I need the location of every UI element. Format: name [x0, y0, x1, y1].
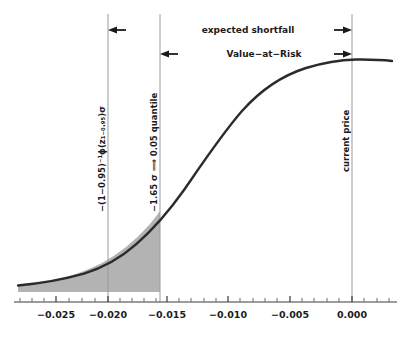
- quantile-label: −1.65 σ ⟹ 0.05 quantile: [149, 92, 159, 212]
- x-tick-label: −0.025: [37, 309, 75, 320]
- x-tick-label: −0.015: [148, 309, 186, 320]
- expected-shortfall-formula-label: −(1−0.95)⁻¹ϕ(z₁₋₀.₉₅)σ: [97, 106, 107, 212]
- value-at-risk-label: Value−at−Risk: [227, 49, 303, 59]
- chart-figure: −0.025 −0.020 −0.015 −0.010 −0.005 0.000…: [0, 0, 410, 342]
- x-tick-label: 0.000: [337, 309, 367, 320]
- x-tick-label: −0.020: [89, 309, 127, 320]
- x-tick-label: −0.005: [271, 309, 309, 320]
- current-price-label: current price: [341, 109, 351, 172]
- expected-shortfall-label: expected shortfall: [202, 25, 295, 35]
- x-tick-label: −0.010: [209, 309, 247, 320]
- risk-distribution-chart: −0.025 −0.020 −0.015 −0.010 −0.005 0.000…: [0, 0, 410, 342]
